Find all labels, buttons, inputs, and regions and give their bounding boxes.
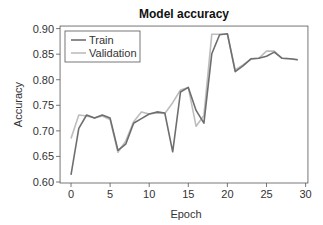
y-axis: 0.600.650.700.750.800.850.90 — [33, 23, 60, 188]
y-tick-label: 0.70 — [33, 125, 54, 137]
y-tick-label: 0.80 — [33, 74, 54, 86]
legend-validation-label: Validation — [89, 47, 137, 59]
y-tick-label: 0.60 — [33, 176, 54, 188]
x-tick-label: 0 — [68, 188, 74, 200]
chart-canvas: Model accuracy 0.600.650.700.750.800.850… — [0, 0, 323, 225]
chart-title: Model accuracy — [139, 7, 229, 21]
x-tick-label: 15 — [182, 188, 194, 200]
x-tick-label: 30 — [299, 188, 311, 200]
x-tick-label: 10 — [143, 188, 155, 200]
y-tick-label: 0.75 — [33, 99, 54, 111]
accuracy-chart: Model accuracy 0.600.650.700.750.800.850… — [0, 0, 323, 225]
x-axis-label: Epoch — [170, 208, 201, 220]
x-axis: 051015202530 — [68, 183, 312, 200]
y-tick-label: 0.85 — [33, 48, 54, 60]
x-tick-label: 20 — [221, 188, 233, 200]
y-tick-label: 0.90 — [33, 23, 54, 35]
legend-train-label: Train — [89, 34, 114, 46]
y-axis-label: Accuracy — [12, 81, 24, 127]
y-tick-label: 0.65 — [33, 150, 54, 162]
legend: Train Validation — [65, 31, 140, 62]
x-tick-label: 25 — [260, 188, 272, 200]
x-tick-label: 5 — [107, 188, 113, 200]
